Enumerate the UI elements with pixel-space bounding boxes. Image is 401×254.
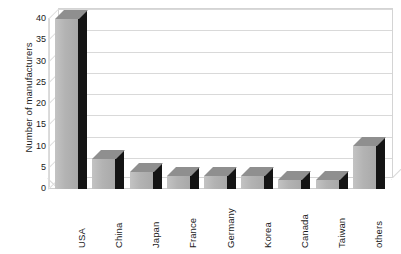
y-axis-tick-label: 0 — [41, 184, 46, 193]
x-axis-label-usa: USA — [76, 228, 87, 248]
bar-front-face — [55, 19, 78, 189]
bar-front-face — [241, 176, 264, 189]
bar-side-face — [78, 10, 87, 189]
y-axis-tick-label: 10 — [36, 141, 46, 150]
bar-others — [353, 136, 386, 189]
bar-canada — [278, 170, 311, 189]
bar-front-face — [204, 176, 227, 189]
y-axis-tick-labels: 0510152025303540 — [24, 8, 46, 188]
bar-china — [92, 149, 125, 189]
bar-chart: Number of manufacturers 0510152025303540… — [0, 0, 401, 254]
y-axis-tick-label: 20 — [36, 99, 46, 108]
bar-taiwan — [316, 170, 349, 189]
x-axis-label-taiwan: Taiwan — [336, 218, 347, 248]
bar-front-face — [167, 176, 190, 189]
x-axis-label-korea: Korea — [262, 222, 273, 248]
bars-container — [48, 8, 393, 189]
bar-japan — [130, 162, 163, 189]
bar-front-face — [278, 180, 301, 189]
bar-germany — [204, 166, 237, 189]
x-axis-label-china: China — [113, 223, 124, 248]
x-axis-label-france: France — [187, 218, 198, 248]
bar-korea — [241, 166, 274, 189]
bar-france — [167, 166, 200, 189]
y-axis-tick-label: 30 — [36, 56, 46, 65]
y-axis-tick-label: 5 — [41, 162, 46, 171]
y-axis-tick-label: 15 — [36, 120, 46, 129]
bar-front-face — [130, 172, 153, 189]
x-axis-label-canada: Canada — [299, 214, 310, 248]
bar-front-face — [353, 146, 376, 189]
x-axis-label-others: others — [373, 221, 384, 248]
x-axis-label-germany: Germany — [225, 208, 236, 248]
y-axis-tick-label: 25 — [36, 77, 46, 86]
x-axis-category-labels: USAChinaJapanFranceGermanyKoreaCanadaTai… — [48, 190, 393, 252]
bar-front-face — [92, 159, 115, 189]
x-axis-label-japan: Japan — [150, 222, 161, 248]
bar-usa — [55, 9, 88, 189]
y-axis-tick-label: 40 — [36, 14, 46, 23]
y-axis-tick-label: 35 — [36, 35, 46, 44]
bar-front-face — [316, 180, 339, 189]
